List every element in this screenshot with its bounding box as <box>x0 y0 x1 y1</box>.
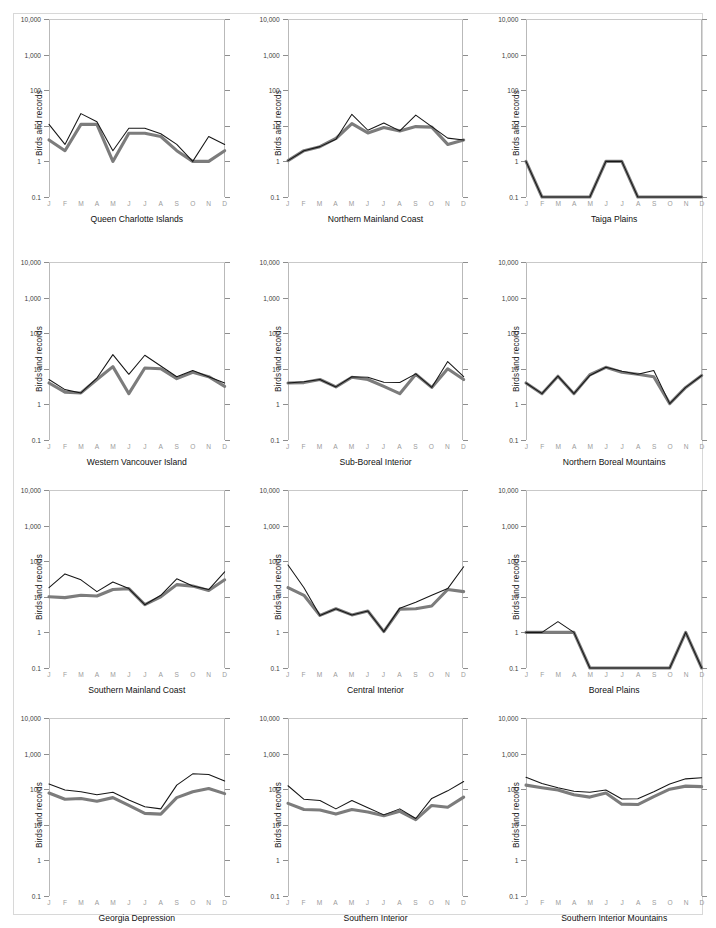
x-axis-tick-label: N <box>206 671 211 678</box>
x-axis-tick-label: J <box>525 671 528 678</box>
y-axis-tick-label: 10 <box>272 821 279 828</box>
y-axis-tick-label: 10 <box>34 365 41 372</box>
records-gray-line <box>49 788 225 814</box>
y-axis-tick <box>702 126 707 127</box>
y-axis-tick <box>44 197 49 198</box>
x-axis-tick-label: F <box>302 443 306 450</box>
x-axis-tick-label: A <box>333 899 337 906</box>
x-axis-tick-label: J <box>620 200 623 207</box>
x-axis-tick-label: A <box>95 443 99 450</box>
records-gray-line <box>288 369 464 394</box>
y-axis-tick-label: 10 <box>34 593 41 600</box>
x-axis-tick-label: F <box>302 671 306 678</box>
x-axis-tick-label: A <box>636 200 640 207</box>
x-axis-tick-label: O <box>667 899 672 906</box>
plot-area: 10,0001,0001001010.1JFMAMJJASONDTaiga Pl… <box>526 19 702 197</box>
y-axis-tick-label: 100 <box>269 330 280 337</box>
y-axis-tick <box>702 860 707 861</box>
y-axis-tick <box>225 19 230 20</box>
y-axis-tick <box>702 526 707 527</box>
records-gray-line <box>49 580 225 605</box>
y-axis-tick <box>283 440 288 441</box>
y-axis-tick-label: 1,000 <box>502 522 519 529</box>
y-axis-tick <box>702 369 707 370</box>
y-axis-tick-label: 1,000 <box>263 522 280 529</box>
x-axis-tick-label: S <box>175 671 179 678</box>
x-axis-tick-label: A <box>572 200 576 207</box>
plot-area: 10,0001,0001001010.1JFMAMJJASONDSouthern… <box>288 718 464 896</box>
data-series-svg <box>526 718 702 896</box>
y-axis-tick <box>225 561 230 562</box>
x-axis-tick-label: A <box>572 671 576 678</box>
panel-inner: Birds and records10,0001,0001001010.1JFM… <box>239 701 478 928</box>
x-axis-tick-label: A <box>397 671 401 678</box>
y-axis-tick <box>463 896 468 897</box>
y-axis-tick <box>44 668 49 669</box>
x-axis-tick-label: S <box>175 200 179 207</box>
x-axis-tick-label: M <box>110 200 116 207</box>
y-axis-tick <box>463 298 468 299</box>
data-series-svg <box>49 19 225 197</box>
y-axis-tick <box>463 561 468 562</box>
x-axis-tick-label: A <box>397 899 401 906</box>
panel-title: Northern Boreal Mountains <box>526 457 702 467</box>
y-axis-tick <box>225 526 230 527</box>
y-axis-tick <box>463 333 468 334</box>
data-series-svg <box>288 718 464 896</box>
x-axis-tick-label: A <box>636 899 640 906</box>
y-axis-tick-label: 10,000 <box>21 487 41 494</box>
y-axis-tick <box>463 197 468 198</box>
y-axis-tick <box>702 161 707 162</box>
x-axis-tick-label: J <box>286 200 289 207</box>
x-axis-tick-label: A <box>636 671 640 678</box>
x-axis-tick-label: O <box>429 443 434 450</box>
y-axis-tick-label: 0.1 <box>509 437 518 444</box>
y-axis-tick <box>463 126 468 127</box>
x-axis-tick-label: J <box>620 899 623 906</box>
y-axis-tick <box>225 262 230 263</box>
panel-title: Western Vancouver Island <box>49 457 225 467</box>
x-axis-tick-label: N <box>684 671 689 678</box>
y-axis-tick <box>225 90 230 91</box>
chart-panel: Birds and records10,0001,0001001010.1JFM… <box>0 473 239 701</box>
y-axis-tick <box>521 197 526 198</box>
x-axis-tick-label: J <box>525 443 528 450</box>
y-axis-tick-label: 10 <box>34 122 41 129</box>
y-axis-tick <box>225 860 230 861</box>
y-axis-tick-label: 10 <box>272 365 279 372</box>
y-axis-tick <box>463 860 468 861</box>
x-axis-tick-label: J <box>366 443 369 450</box>
y-axis-tick <box>225 369 230 370</box>
x-axis-tick-label: D <box>700 200 705 207</box>
y-axis-tick <box>702 19 707 20</box>
x-axis-tick-label: J <box>366 200 369 207</box>
x-axis-tick-label: O <box>429 671 434 678</box>
x-axis-tick-label: S <box>413 899 417 906</box>
x-axis-tick-label: D <box>700 899 705 906</box>
y-axis-tick-label: 1 <box>276 857 280 864</box>
panel-inner: Birds and records10,0001,0001001010.1JFM… <box>0 473 239 701</box>
y-axis-tick <box>702 632 707 633</box>
plot-area: 10,0001,0001001010.1JFMAMJJASONDBoreal P… <box>526 490 702 668</box>
records-gray-line <box>526 161 702 197</box>
x-axis-tick-label: J <box>127 671 130 678</box>
y-axis-tick-label: 0.1 <box>270 893 279 900</box>
y-axis-tick <box>463 825 468 826</box>
y-axis-tick <box>225 298 230 299</box>
y-axis-tick <box>225 126 230 127</box>
figure-multipanel-chart: Birds and records10,0001,0001001010.1JFM… <box>0 0 716 928</box>
x-axis-tick-label: J <box>382 200 385 207</box>
plot-area: 10,0001,0001001010.1JFMAMJJASONDSouthern… <box>526 718 702 896</box>
y-axis-tick <box>225 597 230 598</box>
y-axis-tick <box>521 896 526 897</box>
y-axis-tick-label: 1 <box>37 158 41 165</box>
y-axis-tick <box>225 404 230 405</box>
x-axis-tick-label: F <box>540 899 544 906</box>
x-axis-tick-label: M <box>587 899 593 906</box>
x-axis-tick-label: M <box>78 200 84 207</box>
plot-area: 10,0001,0001001010.1JFMAMJJASONDWestern … <box>49 262 225 440</box>
y-axis-tick <box>702 718 707 719</box>
birds-black-line <box>526 622 702 668</box>
x-axis-tick-label: J <box>605 200 608 207</box>
panel-inner: Birds and records10,0001,0001001010.1JFM… <box>477 245 716 473</box>
